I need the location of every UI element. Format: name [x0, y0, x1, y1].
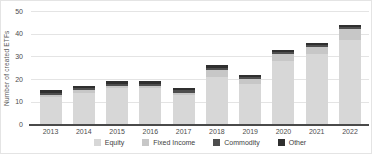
- bar-2021: [306, 43, 328, 125]
- etf-creation-bar-chart: Number of created ETFs 01020304050 20132…: [0, 0, 372, 154]
- y-axis-title: Number of created ETFs: [3, 11, 10, 125]
- x-tick-label-2014: 2014: [68, 128, 100, 136]
- bar-2014: [73, 86, 95, 125]
- y-tick-label-30: 30: [3, 53, 23, 60]
- legend: EquityFixed IncomeCommodityOther: [31, 139, 369, 146]
- bar-segment-2020-fixed-income: [272, 54, 294, 61]
- bar-2018: [206, 65, 228, 124]
- bar-segment-2014-equity: [73, 93, 95, 125]
- bar-segment-2022-equity: [339, 40, 361, 124]
- bar-2019: [239, 75, 261, 125]
- bar-segment-2021-equity: [306, 54, 328, 124]
- legend-item-fixed-income: Fixed Income: [142, 139, 195, 146]
- x-tick-label-2022: 2022: [334, 128, 366, 136]
- bar-2015: [106, 81, 128, 124]
- legend-swatch-icon: [142, 139, 149, 146]
- x-tick-label-2015: 2015: [101, 128, 133, 136]
- y-tick-label-20: 20: [3, 76, 23, 83]
- bar-segment-2018-fixed-income: [206, 70, 228, 77]
- legend-item-other: Other: [278, 139, 307, 146]
- bar-segment-2019-equity: [239, 84, 261, 125]
- bar-2017: [173, 88, 195, 124]
- bar-segment-2018-equity: [206, 77, 228, 125]
- x-tick-label-2017: 2017: [168, 128, 200, 136]
- bar-segment-2017-equity: [173, 95, 195, 125]
- legend-item-commodity: Commodity: [213, 139, 259, 146]
- legend-swatch-icon: [278, 139, 285, 146]
- bar-segment-2016-equity: [139, 88, 161, 124]
- x-tick-label-2018: 2018: [201, 128, 233, 136]
- legend-swatch-icon: [213, 139, 220, 146]
- x-tick-label-2020: 2020: [267, 128, 299, 136]
- legend-swatch-icon: [94, 139, 101, 146]
- gridline-40: [31, 34, 369, 35]
- legend-label: Commodity: [224, 139, 259, 146]
- bar-segment-2015-equity: [106, 88, 128, 124]
- x-tick-label-2019: 2019: [234, 128, 266, 136]
- bar-segment-2022-fixed-income: [339, 29, 361, 40]
- bar-segment-2020-equity: [272, 61, 294, 125]
- x-tick-label-2013: 2013: [35, 128, 67, 136]
- bar-2020: [272, 50, 294, 125]
- gridline-50: [31, 11, 369, 12]
- bar-2022: [339, 25, 361, 125]
- legend-label: Equity: [105, 139, 124, 146]
- x-axis-line: [29, 124, 369, 126]
- bar-segment-2021-fixed-income: [306, 47, 328, 54]
- legend-label: Fixed Income: [153, 139, 195, 146]
- y-tick-label-10: 10: [3, 98, 23, 105]
- legend-item-equity: Equity: [94, 139, 124, 146]
- bar-segment-2013-equity: [40, 97, 62, 124]
- y-tick-label-0: 0: [3, 121, 23, 128]
- y-tick-label-50: 50: [3, 8, 23, 15]
- x-tick-label-2016: 2016: [134, 128, 166, 136]
- x-tick-label-2021: 2021: [301, 128, 333, 136]
- legend-label: Other: [289, 139, 307, 146]
- y-tick-label-40: 40: [3, 30, 23, 37]
- bar-2013: [40, 90, 62, 124]
- bar-2016: [139, 81, 161, 124]
